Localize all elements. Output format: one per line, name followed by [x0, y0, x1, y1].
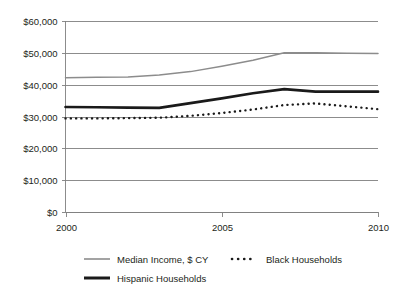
- legend-label-hispanic-households: Hispanic Households: [117, 273, 206, 284]
- series-line-black-households: [66, 103, 379, 118]
- legend-label-median-income: Median Income, $ CY: [117, 254, 209, 265]
- y-axis-ticks-group: [62, 22, 66, 213]
- y-axis-tick-label: $0: [47, 207, 58, 218]
- chart-canvas: $0$10,000$20,000$30,000$40,000$50,000$60…: [0, 0, 398, 298]
- y-axis-tick-label: $50,000: [23, 48, 57, 59]
- x-axis-tick-label: 2000: [56, 222, 77, 233]
- gridlines-group: [66, 22, 379, 213]
- x-axis-tick-labels-group: 200020052010: [56, 222, 389, 233]
- chart-legend: Median Income, $ CY Black Households His…: [84, 254, 342, 284]
- y-axis-tick-label: $60,000: [23, 16, 57, 27]
- y-axis-tick-labels-group: $0$10,000$20,000$30,000$40,000$50,000$60…: [23, 16, 57, 218]
- series-line-median-income: [66, 53, 379, 78]
- y-axis-tick-label: $20,000: [23, 143, 57, 154]
- line-chart: $0$10,000$20,000$30,000$40,000$50,000$60…: [0, 0, 398, 298]
- x-axis-tick-label: 2005: [212, 222, 233, 233]
- y-axis-tick-label: $30,000: [23, 112, 57, 123]
- y-axis-tick-label: $40,000: [23, 80, 57, 91]
- legend-label-black-households: Black Households: [266, 254, 342, 265]
- x-axis-tick-label: 2010: [368, 222, 389, 233]
- y-axis-tick-label: $10,000: [23, 175, 57, 186]
- series-line-hispanic-households: [66, 89, 379, 108]
